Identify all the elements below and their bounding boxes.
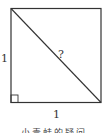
left-side-label: 1	[1, 52, 8, 65]
square-diagram: ? 1 1	[0, 0, 107, 133]
bottom-side-label: 1	[53, 108, 60, 121]
diagonal-line	[11, 9, 101, 103]
diagonal-label: ?	[58, 48, 64, 61]
right-angle-marker	[11, 95, 18, 103]
caption: 小青蛙的疑问	[0, 126, 107, 133]
